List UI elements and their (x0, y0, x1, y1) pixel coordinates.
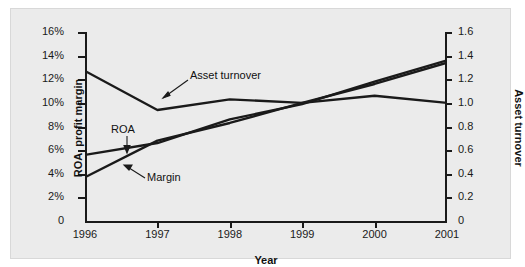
figure-panel: 02%4%6%8%10%12%14%16% 00.20.40.60.81.01.… (11, 9, 510, 258)
y-axis-right-title: Asset turnover (513, 89, 525, 167)
y-axis-left-tick (78, 197, 85, 199)
y-axis-right-tick-label: 1.0 (458, 97, 473, 108)
y-axis-left-tick (78, 56, 85, 58)
y-axis-right-tick-label: 1.4 (458, 50, 473, 61)
y-axis-left-tick-label: 2% (48, 191, 64, 202)
y-axis-right-tick-label: 0.8 (458, 121, 473, 132)
plot-area: 02%4%6%8%10%12%14%16% 00.20.40.60.81.01.… (85, 32, 447, 223)
series-line-roa (85, 60, 447, 155)
y-axis-left-tick-label: 16% (42, 26, 64, 37)
x-axis-tick-label: 2000 (345, 228, 405, 240)
x-axis-tick-label: 2001 (417, 228, 477, 240)
x-axis-title: Year (254, 254, 277, 266)
y-axis-left-tick-label: 8% (48, 121, 64, 132)
x-axis-tick-label: 1996 (55, 228, 115, 240)
x-axis-tick-label: 1999 (272, 228, 332, 240)
y-axis-left-tick-label: 10% (42, 97, 64, 108)
y-axis-right-tick-label: 1.6 (458, 26, 473, 37)
y-axis-left-tick-label: 14% (42, 50, 64, 61)
y-axis-left-tick (78, 32, 85, 34)
y-axis-right-tick-label: 1.2 (458, 73, 473, 84)
x-axis-tick-label: 1998 (200, 228, 260, 240)
y-axis-left-tick-label: 12% (42, 73, 64, 84)
asset-turnover-leader-arrow (163, 92, 170, 98)
x-axis-tick-label: 1997 (127, 228, 187, 240)
y-axis-left-tick-label: 6% (48, 144, 64, 155)
annotation-asset-turnover: Asset turnover (190, 70, 261, 81)
annotation-roa: ROA (111, 124, 135, 135)
y-axis-right-tick-label: 0.6 (458, 144, 473, 155)
series-lines (85, 32, 447, 223)
y-axis-right-tick-label: 0.2 (458, 191, 473, 202)
y-axis-right-tick-label: 0.4 (458, 168, 473, 179)
y-axis-left-tick-label: 0 (58, 215, 64, 226)
series-line-margin (85, 63, 447, 178)
y-axis-left-tick-label: 4% (48, 168, 64, 179)
annotation-margin: Margin (147, 172, 181, 183)
y-axis-right-tick-label: 0 (458, 215, 464, 226)
y-axis-left-title: ROA, profit margin (72, 78, 84, 176)
